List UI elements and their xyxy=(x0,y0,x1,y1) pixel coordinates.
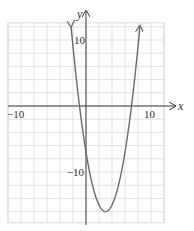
x-axis-label: x xyxy=(177,99,184,113)
y-axis-label: y xyxy=(76,7,83,21)
x-tick-label: 10 xyxy=(144,108,156,120)
parabola-graph: x y −101010−10 xyxy=(0,0,194,231)
x-tick-label: −10 xyxy=(7,108,25,120)
y-tick-label: 10 xyxy=(74,34,86,46)
y-tick-label: −10 xyxy=(67,166,85,178)
